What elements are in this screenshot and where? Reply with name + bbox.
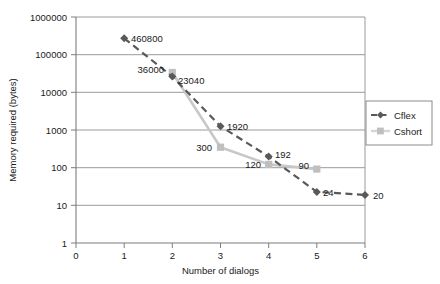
- label-cflex-x1: 460800: [131, 33, 163, 44]
- label-cflex-x2: 23040: [178, 75, 204, 86]
- x-tick-label-0: 0: [73, 250, 78, 261]
- label-cshort-x4: 120: [245, 159, 261, 170]
- y-axis-title: Memory required (bytes): [7, 78, 18, 181]
- x-axis-title: Number of dialogs: [182, 265, 259, 276]
- x-tick-label-5: 5: [314, 250, 319, 261]
- y-tick-label-10000: 10000: [41, 87, 67, 98]
- x-tick-label-2: 2: [170, 250, 175, 261]
- y-tick-label-1000000: 1000000: [30, 12, 67, 23]
- y-tick-label-100: 100: [51, 162, 67, 173]
- label-cshort-x2: 36000: [138, 64, 164, 75]
- legend-label-cshort: Cshort: [394, 126, 422, 137]
- cshort-marker-x5: [313, 166, 320, 173]
- cshort-marker-x4: [265, 161, 272, 168]
- label-cshort-x3: 300: [196, 142, 212, 153]
- y-tick-label-10: 10: [56, 200, 67, 211]
- legend-box: [366, 101, 432, 145]
- y-tick-label-100000: 100000: [35, 49, 67, 60]
- x-tick-label-3: 3: [218, 250, 223, 261]
- cshort-marker-x3: [217, 144, 224, 151]
- memory-vs-dialogs-line-chart: 1000000 100000 10000 1000 100 10 1 0 1 2…: [0, 0, 440, 284]
- label-cflex-x5: 24: [323, 187, 334, 198]
- label-cflex-x3: 1920: [227, 121, 248, 132]
- label-cshort-x5: 90: [298, 160, 309, 171]
- chart-legend[interactable]: Cflex Cshort: [366, 101, 432, 145]
- x-tick-label-1: 1: [122, 250, 127, 261]
- y-tick-label-1: 1: [62, 238, 67, 249]
- label-cflex-x4: 192: [275, 149, 291, 160]
- x-tick-label-4: 4: [266, 250, 271, 261]
- y-tick-label-1000: 1000: [46, 125, 67, 136]
- chart-container: 1000000 100000 10000 1000 100 10 1 0 1 2…: [0, 0, 440, 284]
- x-tick-label-6: 6: [362, 250, 367, 261]
- legend-label-cflex: Cflex: [394, 110, 416, 121]
- label-cflex-x6: 20: [373, 190, 384, 201]
- legend-swatch-cshort-marker: [377, 128, 384, 135]
